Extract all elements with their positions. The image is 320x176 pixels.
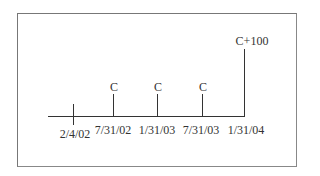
payment-amount-4: C+100 — [236, 35, 269, 47]
payment-date-4: 1/31/04 — [228, 124, 265, 136]
payment-amount-2: C — [154, 81, 162, 93]
payment-tick-1 — [113, 94, 114, 117]
payment-date-2: 1/31/03 — [139, 124, 176, 136]
payment-amount-3: C — [199, 81, 207, 93]
payment-amount-1: C — [110, 81, 118, 93]
timeline-axis — [48, 116, 245, 117]
payment-date-3: 7/31/03 — [183, 124, 220, 136]
payment-date-1: 7/31/02 — [95, 124, 132, 136]
start-date-label: 2/4/02 — [60, 128, 91, 140]
payment-tick-3 — [202, 94, 203, 117]
payment-tick-4 — [244, 49, 245, 117]
payment-tick-2 — [157, 94, 158, 117]
start-tick — [73, 104, 74, 125]
